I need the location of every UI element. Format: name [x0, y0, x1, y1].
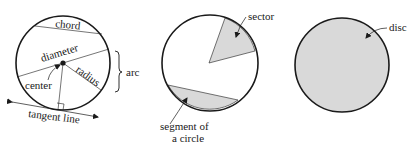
radius-label: radius [74, 63, 103, 89]
circle-terminology-diagram: chord diameter radius center tangent lin… [0, 0, 413, 149]
sector-region [209, 18, 255, 63]
disc-label: disc [389, 21, 407, 33]
disc-region [295, 18, 389, 112]
arc-label: arc [126, 66, 140, 78]
sector-segment-panel: sector segment of a circle [160, 10, 275, 144]
center-label: center [25, 79, 52, 91]
chord-label: chord [55, 17, 82, 32]
segment-label-line2: a circle [172, 132, 204, 144]
segment-region [168, 85, 238, 109]
circle-parts-panel: chord diameter radius center tangent lin… [12, 16, 140, 125]
arc-brace-icon [115, 51, 122, 92]
disc-panel: disc [295, 18, 407, 112]
sector-label: sector [248, 10, 275, 22]
diameter-label: diameter [39, 41, 80, 64]
segment-label-line1: segment of [160, 120, 209, 132]
